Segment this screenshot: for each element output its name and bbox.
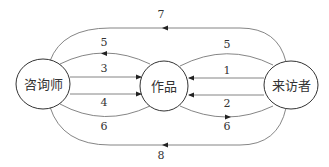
edge-label-4: 4 — [101, 96, 108, 109]
arrow-right-icon — [225, 115, 231, 120]
arrow-left-icon — [188, 76, 194, 81]
edge-label-1: 1 — [224, 64, 231, 77]
edge-5-left: 5 — [60, 36, 150, 64]
edge-2: 2 — [188, 93, 264, 111]
edge-3: 3 — [70, 62, 142, 80]
edge-label-2: 2 — [224, 97, 231, 110]
node-visitor: 来访者 — [264, 61, 318, 109]
edge-label-6-left: 6 — [101, 120, 108, 133]
arrow-left-icon — [101, 51, 107, 56]
edge-6-right: 6 — [180, 106, 273, 133]
edge-5-right: 5 — [180, 38, 273, 66]
edge-label-3: 3 — [101, 62, 108, 75]
edge-label-6-right: 6 — [224, 120, 231, 133]
edge-7: 7 — [50, 8, 286, 62]
node-label-visitor: 来访者 — [272, 78, 311, 93]
edge-4: 4 — [70, 92, 142, 110]
edge-label-8: 8 — [158, 149, 165, 162]
edge-label-5-right: 5 — [224, 38, 231, 51]
edge-8: 8 — [50, 107, 286, 162]
arrow-left-icon — [162, 143, 168, 148]
edge-label-7: 7 — [158, 8, 165, 21]
node-artwork: 作品 — [140, 61, 188, 111]
arrow-left-icon — [162, 26, 168, 31]
edge-1: 1 — [188, 64, 264, 81]
node-label-counselor: 咨询师 — [24, 77, 63, 92]
diagram-canvas: 7 5 3 4 6 5 1 2 6 — [0, 0, 329, 167]
arrow-left-icon — [188, 93, 194, 98]
node-label-artwork: 作品 — [151, 79, 177, 94]
edge-label-5-left: 5 — [101, 36, 108, 49]
node-counselor: 咨询师 — [16, 59, 70, 109]
